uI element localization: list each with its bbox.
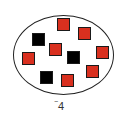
red-tile — [61, 74, 74, 87]
red-tile — [78, 27, 91, 40]
integer-tile-diagram: −4 — [0, 0, 122, 117]
value-number: 4 — [58, 100, 64, 112]
black-tile — [32, 33, 45, 46]
red-tile — [96, 46, 109, 59]
value-label: −4 — [54, 98, 64, 112]
red-tile — [22, 52, 35, 65]
black-tile — [67, 51, 80, 64]
red-tile — [49, 43, 62, 56]
red-tile — [86, 65, 99, 78]
black-tile — [40, 71, 53, 84]
red-tile — [57, 18, 70, 31]
